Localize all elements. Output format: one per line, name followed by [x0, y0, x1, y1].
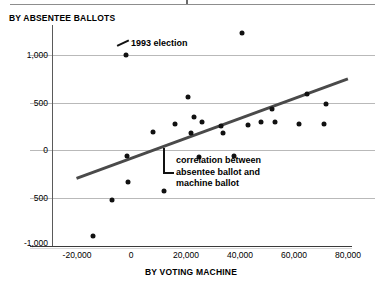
x-tick-20000: 20,000	[173, 250, 199, 260]
data-point	[245, 122, 250, 127]
data-point	[297, 121, 302, 126]
y-tick-minus-500-label: 500	[4, 193, 48, 203]
chart-container: BY ABSENTEE BALLOTS 1,000 500 0 500 -1,0…	[0, 0, 382, 282]
x-tick-minus-20000: -20,000	[63, 250, 92, 260]
x-tick-40000: 40,000	[227, 250, 253, 260]
data-point	[259, 119, 264, 124]
annotation-correlation-leader-horizontal	[163, 172, 174, 174]
data-point	[150, 130, 155, 135]
data-point	[221, 130, 226, 135]
annotation-1993-election: 1993 election	[131, 38, 188, 50]
gridline-0	[30, 150, 375, 151]
annotation-correlation-line-3: machine ballot	[176, 178, 261, 190]
annotation-correlation-note: correlation between absentee ballot and …	[176, 155, 261, 190]
data-point	[272, 119, 277, 124]
data-point	[126, 180, 131, 185]
data-point	[186, 95, 191, 100]
data-point	[218, 124, 223, 129]
gridline-minus-500	[30, 198, 375, 199]
x-tick-80000: 80,000	[335, 250, 361, 260]
x-tick-0: 0	[129, 250, 134, 260]
annotation-correlation-leader-vertical	[163, 148, 165, 173]
x-axis-title: BY VOTING MACHINE	[0, 267, 382, 277]
data-point	[240, 31, 245, 36]
data-point	[270, 107, 275, 112]
y-axis-spine	[52, 25, 53, 247]
data-point	[91, 234, 96, 239]
annotation-correlation-line-2: absentee ballot and	[176, 167, 261, 179]
plot-area: 1,000 500 0 500 -1,000 -20,000 0 20,000 …	[0, 0, 382, 282]
data-point	[191, 115, 196, 120]
x-axis-baseline	[30, 246, 352, 247]
annotation-correlation-line-1: correlation between	[176, 155, 261, 167]
data-point	[123, 53, 128, 58]
y-tick-minus-1000-label: -1,000	[4, 238, 48, 248]
annotation-1993-leader	[117, 39, 129, 46]
data-point	[199, 119, 204, 124]
y-tick-1000-label: 1,000	[4, 50, 48, 60]
data-point	[305, 92, 310, 97]
data-point	[110, 198, 115, 203]
x-tick-60000: 60,000	[281, 250, 307, 260]
y-tick-500-label: 500	[4, 98, 48, 108]
data-point	[125, 154, 130, 159]
data-point	[161, 188, 166, 193]
gridline-1000	[30, 55, 375, 56]
y-tick-0-label: 0	[4, 145, 48, 155]
data-point	[188, 131, 193, 136]
data-point	[172, 121, 177, 126]
data-point	[321, 121, 326, 126]
data-point	[324, 101, 329, 106]
x-axis-baseline-shadow	[30, 248, 352, 249]
